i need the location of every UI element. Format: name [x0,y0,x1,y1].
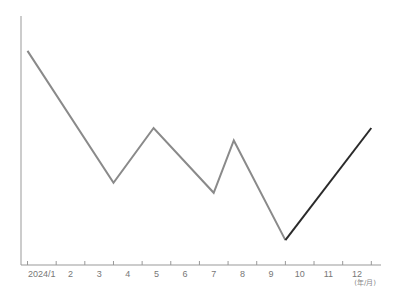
series-line-highlight [285,128,371,240]
x-tick-label: 10 [295,269,305,279]
x-tick-label: 11 [324,269,333,279]
x-tick-label: 2 [68,269,73,279]
x-tick-label: 6 [183,269,188,279]
x-tick-label: 7 [211,269,216,279]
series-lines [28,51,372,240]
x-tick-label: 8 [240,269,245,279]
x-tick-label: 3 [97,269,102,279]
x-tick-label: 2024/1 [28,269,56,279]
x-unit-label: (年/月) [354,278,376,287]
x-tick-label: 9 [269,269,274,279]
x-ticks [28,261,372,265]
x-tick-label: 4 [125,269,130,279]
x-tick-labels: 2024/123456789101112 [28,269,362,279]
x-tick-label: 12 [352,269,362,279]
series-line-trend [28,51,286,240]
line-chart: 2024/123456789101112 (年/月) [0,0,400,308]
x-tick-label: 5 [154,269,159,279]
